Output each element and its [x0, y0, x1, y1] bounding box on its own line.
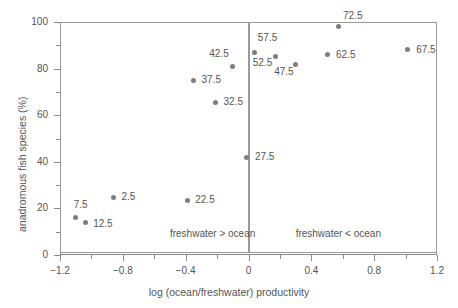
- y-tick-major: [54, 162, 60, 163]
- x-tick-major: [186, 255, 187, 261]
- data-point: [83, 220, 88, 225]
- y-tick-major: [54, 208, 60, 209]
- data-point-label: 2.5: [121, 191, 135, 202]
- y-tick-minor: [56, 232, 60, 233]
- y-axis-label: anadromous fish species (%): [16, 97, 28, 232]
- x-tick-minor: [343, 255, 344, 259]
- data-point-label: 12.5: [93, 218, 112, 229]
- data-point-label: 7.5: [74, 199, 88, 210]
- region-annotation: freshwater < ocean: [296, 228, 381, 239]
- x-tick-minor: [91, 255, 92, 259]
- x-tick-major: [123, 255, 124, 261]
- y-tick-minor: [56, 185, 60, 186]
- y-tick-major: [54, 22, 60, 23]
- y-tick-label: 40: [8, 156, 48, 167]
- y-tick-major: [54, 255, 60, 256]
- x-axis-label: log (ocean/freshwater) productivity: [0, 286, 458, 298]
- x-tick-major: [437, 255, 438, 261]
- y-tick-label: 60: [8, 109, 48, 120]
- data-point: [185, 198, 190, 203]
- data-point-label: 32.5: [224, 96, 243, 107]
- x-tick-minor: [217, 255, 218, 259]
- x-tick-label: 1.2: [407, 265, 458, 276]
- data-point-label: 57.5: [258, 32, 277, 43]
- x-tick-minor: [406, 255, 407, 259]
- x-tick-label: −0.8: [93, 265, 153, 276]
- data-point: [336, 24, 341, 29]
- x-tick-minor: [280, 255, 281, 259]
- y-tick-minor: [56, 45, 60, 46]
- y-tick-minor: [56, 92, 60, 93]
- x-tick-major: [311, 255, 312, 261]
- data-point-label: 67.5: [416, 44, 435, 55]
- scatter-plot-figure: −1.2−0.8−0.400.40.81.2020406080100 7.512…: [0, 0, 458, 308]
- region-annotation: freshwater > ocean: [170, 228, 255, 239]
- x-tick-label: −1.2: [30, 265, 90, 276]
- x-tick-major: [60, 255, 61, 261]
- data-point: [213, 100, 218, 105]
- x-tick-label: 0: [219, 265, 279, 276]
- y-tick-label: 20: [8, 202, 48, 213]
- data-point: [191, 78, 196, 83]
- y-tick-label: 100: [8, 16, 48, 27]
- data-point-label: 47.5: [0, 66, 294, 77]
- data-point: [325, 52, 330, 57]
- x-tick-label: 0.8: [344, 265, 404, 276]
- data-point-label: 22.5: [195, 194, 214, 205]
- y-tick-minor: [56, 139, 60, 140]
- y-tick-label: 0: [8, 249, 48, 260]
- x-tick-label: −0.4: [156, 265, 216, 276]
- data-point-label: 62.5: [336, 49, 355, 60]
- x-tick-major: [374, 255, 375, 261]
- x-tick-minor: [154, 255, 155, 259]
- y-tick-major: [54, 115, 60, 116]
- x-tick-major: [249, 255, 250, 261]
- x-tick-label: 0.4: [281, 265, 341, 276]
- data-point-label: 72.5: [343, 10, 362, 21]
- data-point-label: 27.5: [255, 151, 274, 162]
